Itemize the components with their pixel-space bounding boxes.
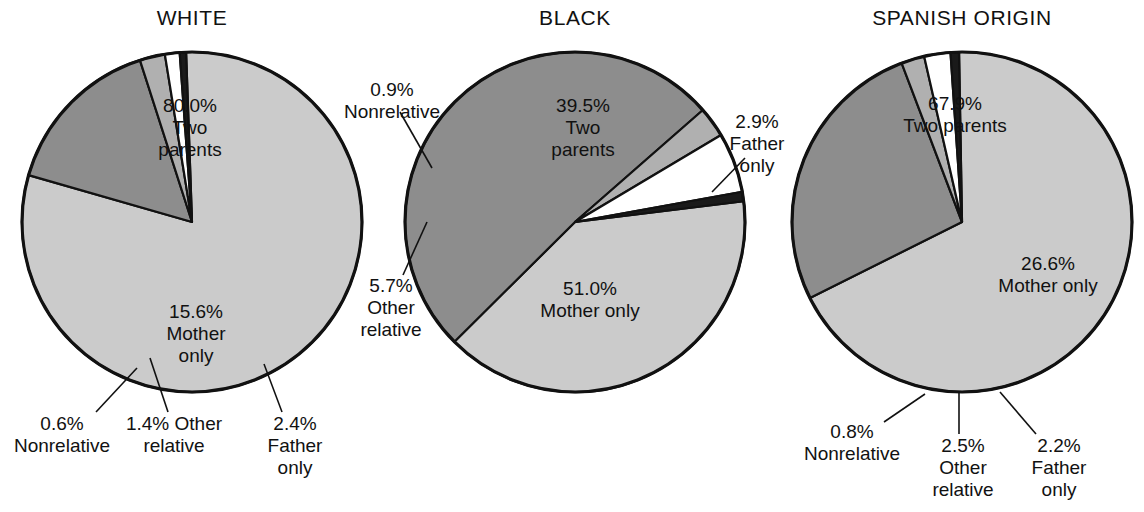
- slice-label-father-only: 2.4%Fatheronly: [268, 413, 324, 478]
- leader-line-nonrelative: [884, 394, 925, 422]
- pie-panel-spanish-origin: SPANISH ORIGIN67.9%Two parents26.6%Mothe…: [792, 6, 1132, 500]
- panel-title: SPANISH ORIGIN: [872, 6, 1052, 29]
- slice-label-other-relative: 1.4% Otherrelative: [126, 413, 223, 456]
- pie-chart-figure: WHITE80.0%Twoparents15.6%Motheronly0.6%N…: [0, 0, 1144, 512]
- leader-line-father-only: [1000, 392, 1036, 434]
- slice-label-other-relative: 2.5%Otherrelative: [932, 435, 993, 500]
- pie-chart-canvas: WHITE80.0%Twoparents15.6%Motheronly0.6%N…: [0, 0, 1144, 512]
- panel-title: BLACK: [539, 6, 611, 29]
- slice-label-nonrelative: 0.8%Nonrelative: [804, 421, 900, 464]
- panel-title: WHITE: [157, 6, 228, 29]
- slice-label-nonrelative: 0.6%Nonrelative: [14, 413, 110, 456]
- slice-label-other-relative: 5.7%Otherrelative: [360, 275, 421, 340]
- slice-label-nonrelative: 0.9%Nonrelative: [344, 79, 440, 122]
- pie-panel-white: WHITE80.0%Twoparents15.6%Motheronly0.6%N…: [14, 6, 362, 478]
- slice-label-father-only: 2.2%Fatheronly: [1032, 435, 1088, 500]
- pie-panel-black: BLACK39.5%Twoparents51.0%Mother only0.9%…: [344, 6, 785, 392]
